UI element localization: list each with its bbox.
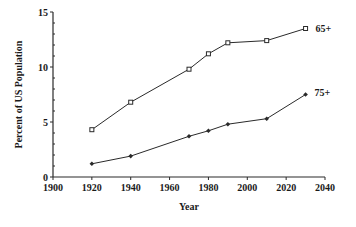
data-point xyxy=(90,162,95,167)
y-axis-title: Percent of US Population xyxy=(13,40,24,148)
series-75-plus: 75+ xyxy=(90,87,331,167)
series-label: 65+ xyxy=(316,23,332,34)
data-point xyxy=(206,52,210,56)
x-tick-label: 1980 xyxy=(198,182,218,193)
x-tick-label: 1940 xyxy=(121,182,141,193)
series-65-plus: 65+ xyxy=(90,23,332,132)
line-chart: 19001920194019601980200020202040 051015 … xyxy=(0,0,356,227)
y-tick-label: 0 xyxy=(43,172,48,183)
data-point xyxy=(206,129,211,134)
x-tick-label: 1920 xyxy=(82,182,102,193)
y-tick-label: 15 xyxy=(38,7,48,18)
x-tick-label: 1900 xyxy=(43,182,63,193)
data-point xyxy=(226,41,230,45)
data-point xyxy=(303,92,308,97)
data-point xyxy=(187,134,192,139)
data-point xyxy=(304,27,308,31)
x-tick-label: 1960 xyxy=(160,182,180,193)
data-point xyxy=(129,100,133,104)
x-axis-ticks: 19001920194019601980200020202040 xyxy=(43,177,335,193)
y-tick-label: 5 xyxy=(43,117,48,128)
x-axis-title: Year xyxy=(179,201,200,212)
axes xyxy=(53,12,325,177)
series-line xyxy=(92,95,306,164)
data-point xyxy=(90,128,94,132)
data-point xyxy=(226,122,231,127)
data-point xyxy=(264,116,269,121)
data-point xyxy=(187,67,191,71)
y-tick-label: 10 xyxy=(38,62,48,73)
x-tick-label: 2020 xyxy=(276,182,296,193)
x-tick-label: 2000 xyxy=(237,182,257,193)
series-layer: 65+75+ xyxy=(90,23,332,167)
series-label: 75+ xyxy=(315,87,331,98)
data-point xyxy=(265,39,269,43)
x-tick-label: 2040 xyxy=(315,182,335,193)
data-point xyxy=(128,154,133,159)
